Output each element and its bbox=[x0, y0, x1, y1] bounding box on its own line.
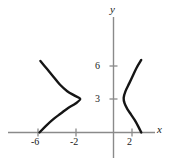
x-tick-label-minus2: -2 bbox=[70, 137, 78, 147]
x-tick-label-2: 2 bbox=[127, 137, 132, 147]
y-tick-label-6: 6 bbox=[95, 61, 100, 71]
plot-canvas bbox=[0, 0, 169, 165]
x-axis-label: x bbox=[157, 124, 162, 135]
hyperbola-left-branch bbox=[40, 61, 81, 132]
hyperbola-right-branch bbox=[124, 60, 142, 133]
x-tick-label-minus6: -6 bbox=[31, 137, 39, 147]
y-axis-label: y bbox=[110, 4, 115, 15]
y-tick-label-3: 3 bbox=[95, 94, 100, 104]
hyperbola-graph-figure: y x -6 -2 2 3 6 bbox=[0, 0, 169, 165]
